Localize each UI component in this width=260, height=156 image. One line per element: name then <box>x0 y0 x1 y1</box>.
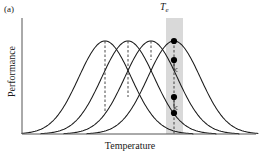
figure-panel-a: (a) Te Temperature Performance <box>0 0 260 156</box>
performance-marker <box>171 94 177 100</box>
y-axis-label: Performance <box>6 17 17 127</box>
te-shaded-band <box>166 18 183 134</box>
thermal-performance-chart <box>0 0 260 156</box>
performance-marker <box>171 38 177 44</box>
performance-curve <box>41 41 216 134</box>
performance-curves <box>22 41 258 134</box>
performance-marker <box>171 110 177 116</box>
x-axis-label: Temperature <box>0 140 260 151</box>
performance-marker <box>171 57 177 63</box>
